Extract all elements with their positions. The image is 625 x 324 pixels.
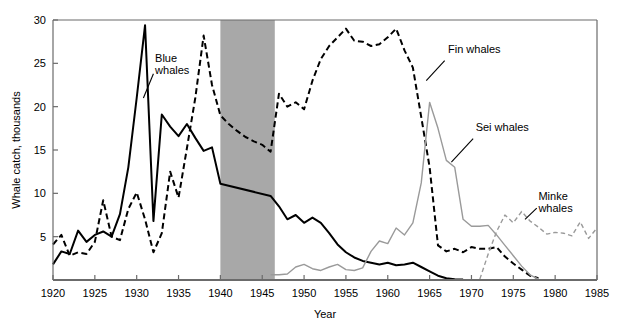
- y-tick-label-15: 15: [34, 144, 46, 156]
- x-tick-label-1970: 1970: [459, 287, 483, 299]
- series-label-blue-whales-line2: whales: [154, 64, 190, 76]
- x-tick-label-1975: 1975: [501, 287, 525, 299]
- series-label-minke-whales-line2: whales: [537, 202, 573, 214]
- x-tick-label-1965: 1965: [417, 287, 441, 299]
- shaded-region-world-war-two-gap: [220, 20, 274, 280]
- x-tick-label-1940: 1940: [208, 287, 232, 299]
- x-tick-label-1955: 1955: [334, 287, 358, 299]
- x-tick-label-1930: 1930: [124, 287, 148, 299]
- x-tick-label-1980: 1980: [543, 287, 567, 299]
- x-axis-title: Year: [314, 308, 337, 320]
- x-tick-label-1985: 1985: [585, 287, 609, 299]
- series-label-fin-whales: Fin whales: [448, 43, 501, 55]
- series-label-sei-whales: Sei whales: [476, 121, 530, 133]
- x-tick-label-1945: 1945: [250, 287, 274, 299]
- y-tick-label-5: 5: [40, 231, 46, 243]
- x-tick-label-1960: 1960: [376, 287, 400, 299]
- x-tick-label-1935: 1935: [166, 287, 190, 299]
- series-label-minke-whales-line1: Minke: [538, 190, 567, 202]
- y-tick-label-25: 25: [34, 57, 46, 69]
- shaded-region-layer: [220, 20, 274, 280]
- x-tick-label-1925: 1925: [83, 287, 107, 299]
- y-tick-label-10: 10: [34, 187, 46, 199]
- chart-canvas: 1920192519301935194019451950195519601965…: [0, 0, 625, 324]
- y-tick-label-20: 20: [34, 101, 46, 113]
- x-tick-label-1920: 1920: [41, 287, 65, 299]
- series-label-blue-whales-line1: Blue: [155, 52, 177, 64]
- y-axis-title: Whale catch, thousands: [10, 91, 22, 209]
- x-tick-label-1950: 1950: [292, 287, 316, 299]
- y-tick-label-30: 30: [34, 14, 46, 26]
- whale-catch-figure: 1920192519301935194019451950195519601965…: [0, 0, 625, 324]
